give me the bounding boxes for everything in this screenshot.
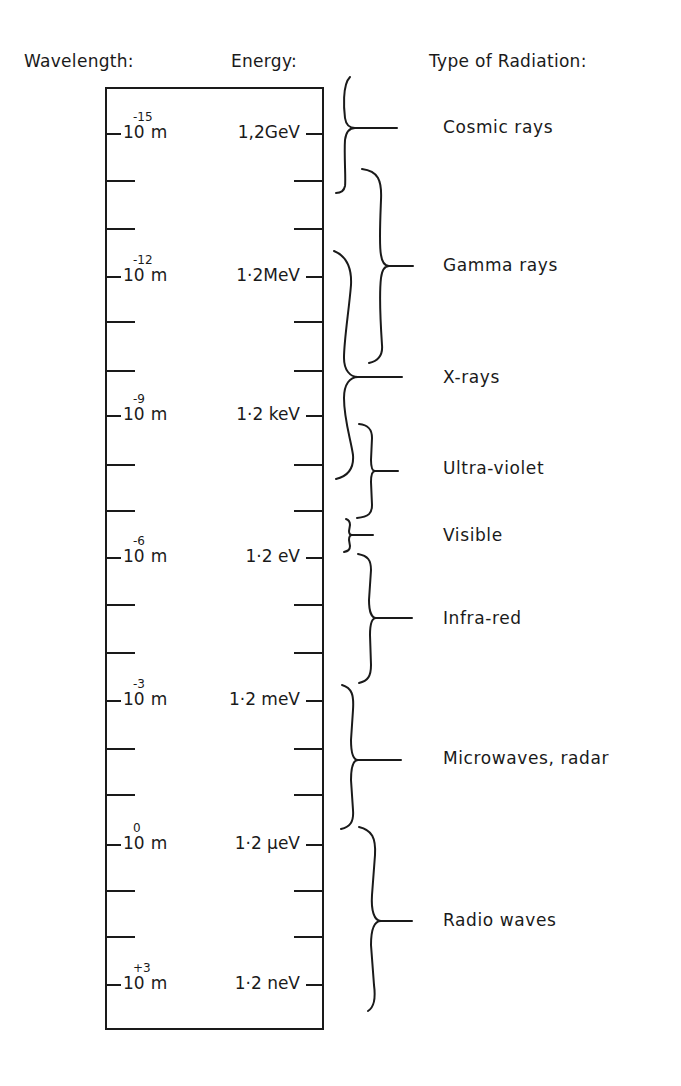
brace-cosmic-rays xyxy=(336,77,355,193)
radiation-label-microwaves-radar: Microwaves, radar xyxy=(443,748,609,768)
brace-microwaves-radar xyxy=(341,685,358,829)
radiation-label-x-rays: X-rays xyxy=(443,367,500,387)
brace-x-rays xyxy=(334,251,358,479)
radiation-label-gamma-rays: Gamma rays xyxy=(443,255,558,275)
brace-infra-red xyxy=(358,554,376,683)
radiation-label-ultra-violet: Ultra-violet xyxy=(443,458,544,478)
radiation-label-infra-red: Infra-red xyxy=(443,608,522,628)
radiation-label-visible: Visible xyxy=(443,525,503,545)
brace-radio-waves xyxy=(359,827,381,1011)
brace-visible xyxy=(344,519,352,552)
radiation-label-cosmic-rays: Cosmic rays xyxy=(443,117,553,137)
radiation-label-radio-waves: Radio waves xyxy=(443,910,556,930)
radiation-braces xyxy=(0,0,681,1086)
brace-ultra-violet xyxy=(357,424,375,518)
brace-gamma-rays xyxy=(362,169,389,363)
